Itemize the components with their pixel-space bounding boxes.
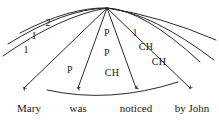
cell-label-1-upper: 1 [31, 31, 36, 41]
word-label-by-john: by John [175, 103, 210, 114]
ray-was [78, 8, 107, 88]
cell-label-1-lower: 1 [23, 45, 28, 55]
cell-label-ch-low: CH [152, 57, 166, 67]
cell-label-ch-top: CH [139, 42, 153, 52]
cell-label-ch-mid: CH [105, 68, 119, 78]
word-label-noticed: noticed [120, 103, 152, 114]
cell-label-p-left: P [67, 65, 73, 75]
stratificational-diagram: 2 1 1 P 1 P CH P CH CH Mary was noticed … [0, 0, 219, 122]
cell-label-2: 2 [45, 18, 50, 28]
word-label-mary: Mary [17, 103, 41, 114]
cell-label-1-right: 1 [132, 28, 137, 38]
cell-label-p-mid: P [104, 48, 110, 58]
cell-label-p-top: P [104, 28, 110, 38]
arc-base [47, 82, 178, 95]
word-label-was: was [69, 103, 86, 114]
